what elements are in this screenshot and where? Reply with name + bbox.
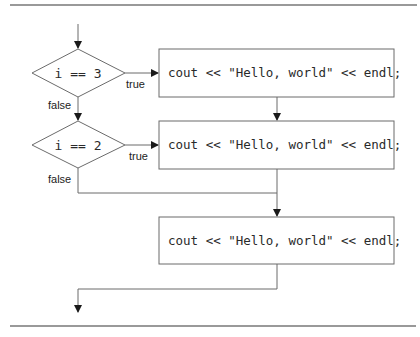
- false-label-1: false: [48, 99, 71, 111]
- true-label-1: true: [126, 78, 145, 90]
- statement-1: cout << "Hello, world" << endl;: [159, 49, 401, 97]
- exit-path: [78, 264, 277, 312]
- statement-1-code: cout << "Hello, world" << endl;: [168, 65, 401, 80]
- decision-1: i == 3: [32, 49, 125, 97]
- decision-2: i == 2: [32, 121, 125, 168]
- statement-3-code: cout << "Hello, world" << endl;: [168, 233, 401, 248]
- decision-2-condition: i == 2: [55, 138, 102, 153]
- false-path-2: [78, 168, 277, 193]
- flowchart: i == 3 true false cout << "Hello, world"…: [0, 0, 420, 337]
- statement-3: cout << "Hello, world" << endl;: [159, 217, 401, 264]
- statement-2: cout << "Hello, world" << endl;: [159, 121, 401, 169]
- true-label-2: true: [129, 150, 148, 162]
- statement-2-code: cout << "Hello, world" << endl;: [168, 137, 401, 152]
- false-label-2: false: [48, 173, 71, 185]
- decision-1-condition: i == 3: [55, 66, 102, 81]
